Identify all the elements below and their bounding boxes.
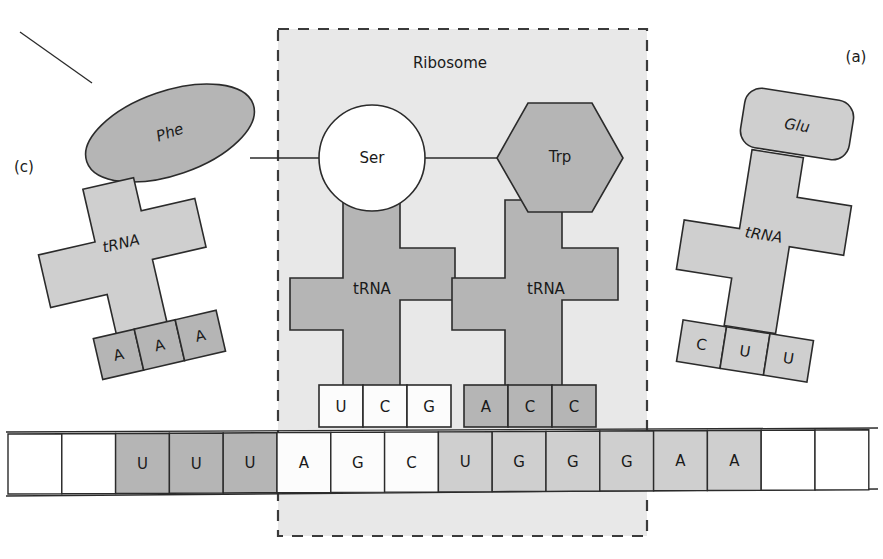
trna-p-site-label: tRNA [353, 280, 392, 298]
mrna-base: G [352, 454, 364, 472]
trna-right-anticodon: C U U [677, 320, 814, 382]
anticodon-base: U [336, 398, 347, 416]
trp-label: Trp [548, 148, 572, 166]
mrna-base: A [299, 454, 310, 472]
diagram-canvas: Ribosome Phe tRNA [0, 0, 883, 559]
mrna-base: U [137, 455, 148, 473]
mrna-base: U [191, 455, 202, 473]
mrna-base-boxes: UUUAGCUGGGAA [8, 430, 869, 494]
mrna-base: G [513, 453, 525, 471]
ser-label: Ser [360, 149, 386, 167]
translation-diagram: Ribosome Phe tRNA [0, 0, 883, 559]
anticodon-base: C [380, 398, 390, 416]
mrna-base: C [406, 454, 416, 472]
mrna-base: U [245, 454, 256, 472]
trna-incoming-left-group[interactable]: Phe tRNA A A A (c) [14, 65, 267, 380]
mrna-base-box [815, 430, 869, 490]
mrna-base-box [8, 434, 62, 494]
mrna-base-box [761, 430, 815, 490]
trna-a-site-anticodon: A C C [464, 385, 596, 427]
chain-tail-line [20, 32, 92, 83]
anticodon-base: C [525, 398, 535, 416]
anticodon-base: C [569, 398, 579, 416]
mrna-base: U [460, 453, 471, 471]
panel-label-left: (c) [14, 158, 34, 176]
trna-a-site-label: tRNA [527, 280, 566, 298]
mrna-base-box [62, 433, 116, 493]
ribosome-label: Ribosome [413, 54, 487, 72]
trna-incoming-right-group[interactable]: tRNA Glu C U U (a) [669, 48, 867, 383]
trna-right-body: tRNA [669, 141, 858, 342]
mrna-strand[interactable]: UUUAGCUGGGAA [6, 428, 878, 496]
mrna-base: A [675, 452, 686, 470]
mrna-base: G [621, 453, 633, 471]
mrna-base: G [567, 453, 579, 471]
trna-p-site-anticodon: U C G [319, 385, 451, 427]
anticodon-base: A [481, 398, 492, 416]
mrna-base: A [729, 452, 740, 470]
panel-label-right: (a) [846, 48, 867, 66]
anticodon-base: G [423, 398, 435, 416]
